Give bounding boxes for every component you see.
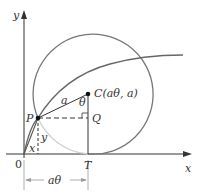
- x-coord-label: x: [29, 142, 36, 155]
- p-label: P: [25, 112, 34, 125]
- t-label: T: [84, 159, 93, 172]
- radius-label: a: [61, 94, 68, 107]
- arc-length-label: aθ: [48, 174, 62, 187]
- angle-label: θ: [79, 96, 86, 109]
- y-axis-arrow-icon: [21, 10, 27, 19]
- x-axis-arrow-icon: [183, 151, 192, 157]
- dim-arrow-right-icon: [81, 178, 87, 182]
- cycloid-curve: [24, 55, 183, 154]
- origin-label: 0: [15, 158, 22, 171]
- y-axis-label: y: [12, 9, 20, 22]
- x-axis-label: x: [185, 162, 192, 175]
- dim-arrow-left-icon: [25, 178, 31, 182]
- y-coord-label: y: [40, 131, 48, 144]
- cycloid-diagram: y x 0 T P Q C(aθ, a) a θ x y aθ: [0, 0, 197, 195]
- point-c: [86, 92, 91, 97]
- point-p: [36, 116, 41, 121]
- q-label: Q: [92, 112, 101, 125]
- center-label: C(aθ, a): [94, 87, 138, 100]
- right-angle-marker: [82, 113, 88, 118]
